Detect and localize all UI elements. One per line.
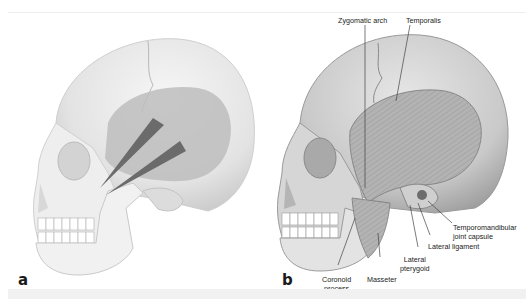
label-lateral-pterygoid-line2: pterygoid	[400, 264, 430, 273]
anatomy-figure: a	[8, 12, 526, 291]
label-tmj-capsule: Temporomandibular joint capsule	[453, 223, 517, 241]
label-zygomatic-arch: Zygomatic arch	[338, 16, 387, 25]
label-coronoid-line1: Coronoid	[322, 275, 351, 284]
label-tmj-capsule-line1: Temporomandibular	[453, 223, 517, 232]
panel-b: Zygomatic arch Temporalis Temporomandibu…	[260, 13, 526, 291]
label-lateral-pterygoid: Lateral pterygoid	[400, 255, 430, 273]
label-tmj-capsule-line2: joint capsule	[453, 232, 517, 241]
label-masseter: Masseter	[367, 275, 397, 284]
bottom-strip	[8, 289, 526, 299]
panel-a: a	[8, 13, 260, 291]
label-lateral-pterygoid-line1: Lateral	[400, 255, 430, 264]
skull-illustration-b	[260, 13, 526, 291]
panel-label-b: b	[282, 271, 293, 289]
label-lateral-ligament: Lateral ligament	[428, 242, 479, 251]
panel-label-a: a	[18, 271, 28, 289]
skull-illustration-a	[8, 13, 260, 291]
label-temporalis: Temporalis	[406, 16, 441, 25]
